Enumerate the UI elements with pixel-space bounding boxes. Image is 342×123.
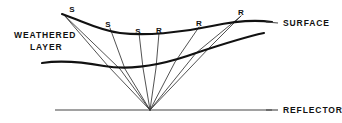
station-label-r3: R [238,8,244,17]
station-label-s1: S [69,5,75,14]
weathered-layer-label-line2: LAYER [30,42,63,52]
diagram-canvas: S S S R R R WEATHERED LAYER SURFACE REFL… [0,0,342,123]
raypath-6 [150,27,199,110]
station-label-r2: R [196,19,202,28]
surface-callout-tick [266,22,278,23]
raypath-5 [150,33,159,110]
seismic-raypath-figure: S S S R R R WEATHERED LAYER SURFACE REFL… [0,0,342,123]
raypath-group [64,15,241,110]
reflector-label: REFLECTOR [283,105,342,115]
surface-label: SURFACE [283,18,330,28]
raypath-3 [110,28,150,110]
raypath-4 [139,33,150,110]
station-label-s3: S [135,27,141,36]
weathered-layer-label-line1: WEATHERED [14,30,76,40]
station-label-r1: R [156,26,162,35]
station-label-s2: S [105,20,111,29]
